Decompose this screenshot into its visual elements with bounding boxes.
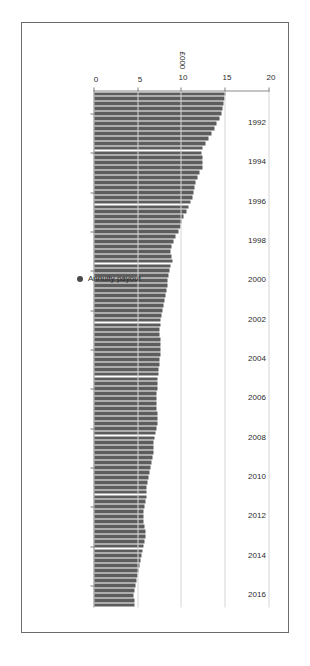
gridline — [181, 91, 182, 607]
year-tick-label: 2006 — [248, 393, 266, 402]
bar — [94, 583, 135, 587]
year-tick-label: 2012 — [248, 511, 266, 520]
year-tick-label: 2014 — [248, 550, 266, 559]
value-tick-label: 10 — [179, 72, 188, 81]
bar — [94, 229, 178, 233]
bar — [94, 367, 158, 371]
year-tick-label: 1992 — [248, 117, 266, 126]
value-tick-label: 15 — [222, 72, 231, 81]
bar — [94, 558, 140, 562]
bar — [94, 588, 134, 592]
bar — [94, 165, 202, 169]
bar — [94, 141, 205, 145]
bar — [94, 332, 159, 336]
bar — [94, 357, 159, 361]
bar — [94, 264, 170, 268]
bar — [94, 205, 189, 209]
bar — [94, 126, 214, 130]
bar — [94, 96, 224, 100]
bar — [94, 146, 203, 150]
year-tick — [90, 467, 94, 468]
bar — [94, 470, 149, 474]
bar — [94, 298, 164, 302]
bar — [94, 445, 154, 449]
year-tick-label: 2008 — [248, 432, 266, 441]
value-tick — [268, 87, 269, 91]
plot-area: 05101520£0001992199419961998200020022004… — [93, 90, 269, 607]
bar — [94, 234, 175, 238]
bar — [94, 106, 222, 110]
bar — [94, 342, 160, 346]
bar — [94, 426, 156, 430]
bar — [94, 475, 148, 479]
bar — [94, 244, 171, 248]
value-tick — [224, 87, 225, 91]
value-tick-label: 20 — [266, 72, 275, 81]
bar — [94, 377, 157, 381]
bar — [94, 568, 138, 572]
bar — [94, 401, 156, 405]
bar — [94, 563, 140, 567]
bar — [94, 460, 151, 464]
value-tick — [93, 87, 94, 91]
year-tick — [90, 231, 94, 232]
bar — [94, 465, 150, 469]
year-tick-label: 2010 — [248, 471, 266, 480]
bar — [94, 259, 172, 263]
bar — [94, 337, 160, 341]
bar — [94, 116, 219, 120]
bar — [94, 553, 141, 557]
gridline — [137, 91, 138, 607]
bar — [94, 239, 173, 243]
bar — [94, 509, 143, 513]
bar — [94, 603, 134, 607]
value-tick — [181, 87, 182, 91]
bar — [94, 549, 142, 553]
bar — [94, 121, 217, 125]
chart-page: Chart 1.1: Falling annuity rates 0510152… — [0, 0, 310, 666]
bar — [94, 160, 203, 164]
bar — [94, 391, 156, 395]
bar — [94, 195, 192, 199]
bar — [94, 480, 147, 484]
bar — [94, 293, 165, 297]
bar — [94, 308, 162, 312]
year-tick — [90, 152, 94, 153]
bar — [94, 421, 157, 425]
bar — [94, 386, 157, 390]
bar — [94, 190, 193, 194]
bar — [94, 185, 194, 189]
bar — [94, 303, 163, 307]
year-tick — [90, 349, 94, 350]
bar — [94, 519, 143, 523]
year-tick — [90, 113, 94, 114]
chart-stage: 05101520£0001992199419961998200020022004… — [29, 30, 281, 625]
year-tick-label: 1994 — [248, 157, 266, 166]
bar — [94, 151, 201, 155]
bar — [94, 514, 143, 518]
bar — [94, 450, 153, 454]
bar — [94, 209, 186, 213]
bar — [94, 327, 159, 331]
bar — [94, 406, 156, 410]
legend-label-annuity-payout: Annuity payout — [88, 274, 141, 283]
gridline — [224, 91, 225, 607]
year-tick — [90, 506, 94, 507]
bar — [94, 131, 211, 135]
value-tick — [137, 87, 138, 91]
bar — [94, 347, 160, 351]
bar — [94, 111, 221, 115]
value-axis-label: £000 — [178, 51, 187, 69]
bar — [94, 323, 160, 327]
year-tick-label: 2016 — [248, 589, 266, 598]
bar — [94, 598, 134, 602]
gridline — [268, 91, 269, 607]
year-tick-label: 2000 — [248, 275, 266, 284]
year-tick — [90, 585, 94, 586]
bar — [94, 381, 157, 385]
bar — [94, 411, 157, 415]
year-tick-label: 1998 — [248, 235, 266, 244]
value-tick-label: 0 — [93, 74, 97, 83]
bar — [94, 254, 171, 258]
bar — [94, 578, 136, 582]
